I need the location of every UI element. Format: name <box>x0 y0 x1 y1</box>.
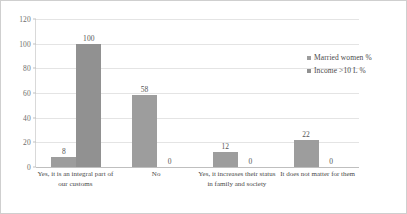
y-axis-tick-label: 120 <box>19 15 31 24</box>
bar-value-label: 0 <box>168 157 172 166</box>
bar-group: 120 <box>198 19 279 167</box>
bar-group: 220 <box>278 19 359 167</box>
legend-label: Income >10 L % <box>314 66 366 75</box>
bar-value-label: 22 <box>302 130 310 139</box>
x-axis-category-labels: Yes, it is an integral part of our custo… <box>35 170 359 208</box>
bar-slot: 58 <box>132 19 157 167</box>
chart-legend: Married women %Income >10 L % <box>307 53 403 79</box>
bar-slot: 12 <box>213 19 238 167</box>
bar-slot: 0 <box>157 19 182 167</box>
bar <box>132 95 157 167</box>
bar <box>51 157 76 167</box>
bar-value-label: 0 <box>329 157 333 166</box>
legend-square-marker-icon <box>307 69 311 73</box>
x-axis-category-label: Yes, it is an integral part of our custo… <box>35 170 116 189</box>
x-axis-category-label: No <box>116 170 197 180</box>
legend-label: Married women % <box>314 53 372 62</box>
bar-value-label: 8 <box>62 147 66 156</box>
bar-slot: 0 <box>319 19 344 167</box>
bar-slot: 22 <box>294 19 319 167</box>
x-axis-category-label: Yes, it increases their status in family… <box>197 170 278 189</box>
bar-slot: 8 <box>51 19 76 167</box>
plot-area: 020406080100120 8100580120220 <box>35 19 359 167</box>
legend-square-marker-icon <box>307 56 311 60</box>
legend-item[interactable]: Married women % <box>307 53 403 62</box>
bar <box>213 152 238 167</box>
bar-slot: 100 <box>76 19 101 167</box>
bar-value-label: 100 <box>83 34 95 43</box>
bar-group: 580 <box>117 19 198 167</box>
bar <box>76 44 101 167</box>
bar-value-label: 12 <box>221 142 229 151</box>
y-axis-tick-label: 100 <box>19 39 31 48</box>
y-axis-tick-label: 0 <box>27 163 31 172</box>
gridline <box>36 167 359 168</box>
legend-item[interactable]: Income >10 L % <box>307 66 403 75</box>
bar-chart-figure: 020406080100120 8100580120220 Yes, it is… <box>0 0 407 214</box>
bar-value-label: 0 <box>248 157 252 166</box>
y-axis-tick-label: 40 <box>23 113 31 122</box>
bar-slot: 0 <box>238 19 263 167</box>
y-axis-tick-label: 20 <box>23 138 31 147</box>
y-axis-tick-label: 60 <box>23 89 31 98</box>
y-axis-tick-label: 80 <box>23 64 31 73</box>
bar <box>294 140 319 167</box>
bar-value-label: 58 <box>141 85 149 94</box>
bar-group: 8100 <box>36 19 117 167</box>
x-axis-category-label: It does not matter for them <box>277 170 358 180</box>
bars-layer: 8100580120220 <box>36 19 359 167</box>
